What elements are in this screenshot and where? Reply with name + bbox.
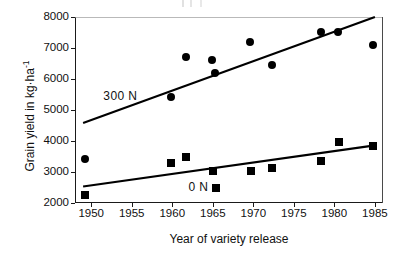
x-tick-label: 1985 <box>354 207 396 219</box>
series-annotation-high-n: 300 N <box>103 89 137 103</box>
data-point-square <box>268 164 276 172</box>
data-point-circle <box>211 69 219 77</box>
x-tick-mark <box>334 202 335 207</box>
x-tick-mark <box>294 202 295 207</box>
y-tick-mark <box>71 17 75 18</box>
x-tick-mark <box>253 202 254 207</box>
data-point-circle <box>208 56 216 64</box>
x-tick-mark <box>172 202 173 207</box>
data-point-square <box>212 184 220 192</box>
data-point-square <box>317 157 325 165</box>
y-tick-mark <box>71 203 75 204</box>
data-point-circle <box>317 28 325 36</box>
x-tick-label: 1960 <box>151 207 193 219</box>
data-point-square <box>335 138 343 146</box>
y-tick-mark <box>71 79 75 80</box>
y-axis-title: Grain yield in kg·ha-1 <box>21 21 37 211</box>
data-point-square <box>81 191 89 199</box>
data-point-circle <box>167 93 175 101</box>
y-tick-mark <box>71 110 75 111</box>
y-tick-mark <box>71 172 75 173</box>
x-axis-title: Year of variety release <box>75 232 383 246</box>
data-point-square <box>182 153 190 161</box>
x-tick-mark <box>132 202 133 207</box>
plot-area <box>75 17 383 203</box>
data-point-circle <box>81 155 89 163</box>
x-tick-mark <box>375 202 376 207</box>
data-point-square <box>247 167 255 175</box>
x-tick-mark <box>91 202 92 207</box>
right-axis-line <box>382 17 383 203</box>
cropped-title-artifact <box>178 0 212 7</box>
y-tick-mark <box>71 48 75 49</box>
data-point-circle <box>182 53 190 61</box>
x-tick-label: 1975 <box>273 207 315 219</box>
data-point-square <box>167 159 175 167</box>
data-point-square <box>209 167 217 175</box>
series-annotation-zero-n: 0 N <box>188 180 208 194</box>
x-tick-label: 1980 <box>313 207 355 219</box>
x-tick-mark <box>213 202 214 207</box>
chart-figure: 2000300040005000600070008000 19501955196… <box>0 0 409 256</box>
x-tick-label: 1955 <box>111 207 153 219</box>
y-tick-mark <box>71 141 75 142</box>
data-point-square <box>369 142 377 150</box>
x-tick-label: 1965 <box>192 207 234 219</box>
x-tick-label: 1950 <box>70 207 112 219</box>
x-tick-label: 1970 <box>232 207 274 219</box>
